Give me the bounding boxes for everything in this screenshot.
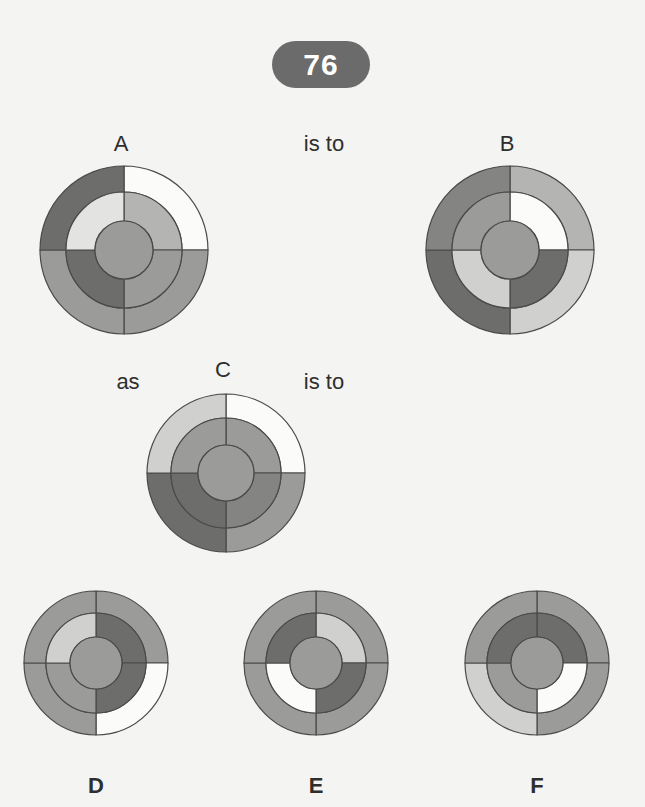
figure-label-c: C xyxy=(215,359,231,381)
figure-wheel-b[interactable] xyxy=(423,163,597,337)
figure-label-d: D xyxy=(88,775,104,797)
figure-wheel-a[interactable] xyxy=(37,163,211,337)
figure-f-hub xyxy=(511,637,563,689)
puzzle-canvas: 76 is to as is to ABCDEF xyxy=(0,0,645,807)
figure-c-hub xyxy=(198,445,254,501)
figure-wheel-e[interactable] xyxy=(241,588,391,738)
figure-label-a: A xyxy=(114,133,129,155)
figure-label-e: E xyxy=(309,775,324,797)
connector-is-to-first: is to xyxy=(304,133,344,155)
figure-a-hub xyxy=(95,221,153,279)
figure-label-b: B xyxy=(500,133,515,155)
figure-label-f: F xyxy=(530,775,543,797)
figure-wheel-c[interactable] xyxy=(144,391,308,555)
figure-wheel-f[interactable] xyxy=(462,588,612,738)
connector-as: as xyxy=(116,371,139,393)
figure-wheel-d[interactable] xyxy=(21,588,171,738)
figure-b-hub xyxy=(481,221,539,279)
figure-d-hub xyxy=(70,637,122,689)
connector-is-to-second: is to xyxy=(304,371,344,393)
figure-e-hub xyxy=(290,637,342,689)
question-number-text: 76 xyxy=(303,50,338,80)
question-number-badge: 76 xyxy=(272,41,370,88)
